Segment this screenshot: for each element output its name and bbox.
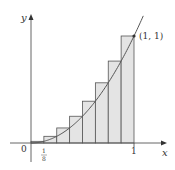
riemann-sum-diagram: y x 0 1 1 8 (1, 1) (0, 0, 175, 170)
x-axis-label: x (162, 147, 168, 158)
origin-label: 0 (21, 144, 27, 154)
tick-eighth-numerator: 1 (42, 147, 46, 154)
tick-one-label: 1 (131, 146, 137, 156)
riemann-rectangle (108, 61, 121, 143)
point-label: (1, 1) (139, 31, 163, 41)
riemann-rectangle (70, 116, 83, 143)
riemann-rectangle (121, 36, 134, 143)
y-axis-arrow-icon (29, 14, 34, 20)
tick-eighth-denominator: 8 (42, 155, 46, 162)
point-marker (132, 34, 135, 37)
riemann-rectangles (31, 36, 134, 143)
riemann-rectangle (83, 101, 96, 143)
y-axis-label: y (20, 12, 27, 23)
x-axis-arrow-icon (161, 141, 167, 146)
